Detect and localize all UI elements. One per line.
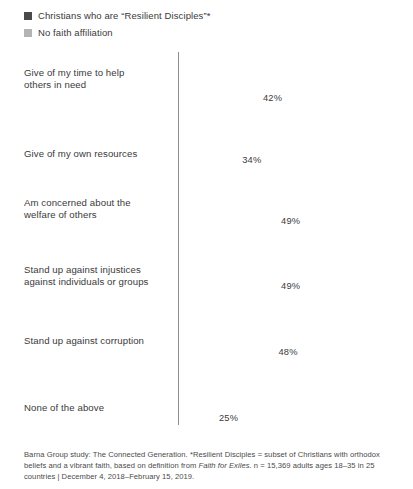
legend-swatch-icon-light — [24, 29, 32, 37]
bar-no-faith-affiliation: 48% — [179, 342, 303, 361]
bar-value-label: 48% — [278, 347, 297, 357]
bar-resilient-disciples: 85% — [179, 60, 399, 79]
bar-value-label: 59% — [307, 253, 326, 263]
chart-legend: Christians who are “Resilient Disciples”… — [24, 8, 211, 42]
bar-value-label: 25% — [219, 413, 238, 423]
bar-no-faith-affiliation: 49% — [179, 211, 306, 230]
legend-swatch-icon-dark — [24, 12, 32, 20]
bar-no-faith-affiliation: 42% — [179, 88, 288, 107]
chart-footnote: Barna Group study: The Connected Generat… — [24, 449, 392, 483]
bar-resilient-disciples: 72% — [179, 183, 365, 202]
bar-no-faith-affiliation: 25% — [179, 408, 244, 427]
bar-value-label: 74% — [346, 127, 365, 137]
legend-item-no-faith-affiliation: No faith affiliation — [24, 25, 211, 40]
bar-value-label: 72% — [341, 188, 360, 198]
bar-value-label: 49% — [281, 281, 300, 291]
bar-value-label: 49% — [281, 216, 300, 226]
bar-no-faith-affiliation: 34% — [179, 150, 267, 169]
bar-value-label: 58% — [304, 319, 323, 329]
category-label: Stand up against corruption — [24, 335, 174, 347]
legend-label-resilient-disciples: Christians who are “Resilient Disciples”… — [38, 10, 211, 21]
bar-value-label: 34% — [242, 155, 261, 165]
bar-resilient-disciples — [179, 380, 182, 399]
bar-resilient-disciples: 58% — [179, 314, 329, 333]
category-label: Stand up against injusticesagainst indiv… — [24, 264, 174, 289]
bar-resilient-disciples: 74% — [179, 122, 371, 141]
category-label: Give of my own resources — [24, 148, 174, 160]
category-label: Give of my time to helpothers in need — [24, 67, 174, 92]
category-label: Am concerned about thewelfare of others — [24, 197, 174, 222]
value-axis-line — [178, 52, 179, 425]
legend-item-resilient-disciples: Christians who are “Resilient Disciples”… — [24, 8, 211, 23]
plot-area: Give of my time to helpothers in need85%… — [0, 52, 413, 425]
bar-value-label: 42% — [263, 93, 282, 103]
footnote-text-italic1: Faith for Exiles — [199, 461, 250, 470]
bar-resilient-disciples: 59% — [179, 248, 332, 267]
legend-label-no-faith-affiliation: No faith affiliation — [38, 27, 113, 38]
chart-container: Christians who are “Resilient Disciples”… — [0, 0, 413, 489]
bar-value-label: 85% — [374, 65, 393, 75]
category-label: None of the above — [24, 402, 174, 414]
bar-no-faith-affiliation: 49% — [179, 276, 306, 295]
